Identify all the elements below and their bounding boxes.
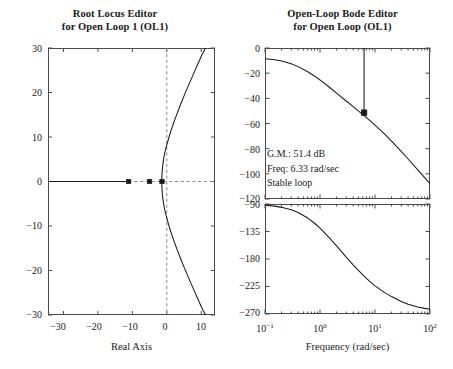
root-locus-closed-loop-pole-1 [126, 179, 130, 183]
bode-panel: Open-Loop Bode Editor for Open Loop (OL1… [226, 0, 453, 369]
root-locus-ytick-0: 0 [8, 177, 42, 187]
bode-phase-plot-area [265, 205, 430, 309]
root-locus-ytick-m30: −30 [8, 310, 42, 320]
root-locus-xtick-m30: −30 [39, 322, 77, 332]
root-locus-branch-upper [162, 48, 206, 182]
bode-magnitude-plot-area [265, 48, 430, 184]
root-locus-branch-lower [162, 182, 206, 316]
root-locus-ytick-20: 20 [8, 88, 42, 98]
root-locus-xtick-m10: −10 [111, 322, 149, 332]
bode-magnitude-curve [265, 59, 430, 184]
figure-root: Root Locus Editor for Open Loop 1 (OL1) … [0, 0, 453, 369]
bode-phase-curve [265, 205, 430, 309]
root-locus-ytick-m20: −20 [8, 266, 42, 276]
root-locus-closed-loop-pole-3 [160, 179, 164, 183]
root-locus-xtick-m20: −20 [75, 322, 113, 332]
root-locus-plot-area [48, 48, 215, 315]
bode-canvas [226, 0, 453, 369]
root-locus-panel: Root Locus Editor for Open Loop 1 (OL1) … [0, 0, 226, 369]
gain-margin-marker [361, 110, 367, 116]
root-locus-xlabel: Real Axis [48, 341, 215, 352]
root-locus-ytick-10: 10 [8, 133, 42, 143]
root-locus-closed-loop-pole-2 [147, 179, 151, 183]
root-locus-ytick-30: 30 [8, 44, 42, 54]
root-locus-xtick-10: 10 [182, 322, 220, 332]
root-locus-xtick-0: 0 [146, 322, 184, 332]
root-locus-ytick-m10: −10 [8, 221, 42, 231]
